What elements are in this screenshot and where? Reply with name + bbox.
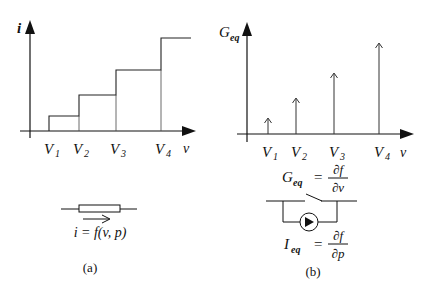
panel-b-x-label: v bbox=[400, 145, 407, 160]
svg-text:V: V bbox=[262, 144, 273, 160]
panel-b-tick-v3: V 3 bbox=[329, 144, 345, 162]
panel-a-staircase bbox=[49, 38, 191, 131]
svg-text:G: G bbox=[219, 24, 230, 40]
wire-branch-left bbox=[283, 201, 300, 222]
impulse-v3 bbox=[331, 73, 338, 134]
panel-a-tick-v3: V 3 bbox=[110, 141, 126, 159]
svg-text:∂p: ∂p bbox=[332, 246, 345, 261]
impulse-v2 bbox=[293, 98, 300, 134]
panel-b-y-label: G eq bbox=[219, 24, 239, 43]
svg-text:2: 2 bbox=[302, 151, 307, 162]
panel-b-tick-v2: V 2 bbox=[291, 144, 307, 162]
svg-text:=: = bbox=[314, 236, 322, 252]
panel-a-x-label: v bbox=[183, 141, 190, 156]
svg-text:4: 4 bbox=[166, 148, 171, 159]
svg-text:V: V bbox=[374, 144, 385, 160]
panel-a-caption: (a) bbox=[83, 260, 97, 275]
svg-text:=: = bbox=[314, 169, 322, 185]
svg-text:∂f: ∂f bbox=[333, 162, 345, 177]
svg-text:V: V bbox=[291, 144, 302, 160]
panel-b-circuit bbox=[266, 194, 357, 231]
svg-text:4: 4 bbox=[385, 151, 390, 162]
geq-equation: G eq = ∂f ∂v bbox=[282, 162, 348, 195]
ieq-equation: I eq = ∂f ∂p bbox=[283, 228, 348, 261]
resistor-body bbox=[79, 205, 120, 212]
panel-a-tick-v2: V 2 bbox=[73, 141, 89, 159]
svg-text:1: 1 bbox=[55, 148, 60, 159]
panel-a-tick-v4: V 4 bbox=[155, 141, 171, 159]
panel-a-y-arrow-icon bbox=[25, 20, 35, 34]
svg-text:eq: eq bbox=[293, 177, 302, 188]
panel-b-plot: G eq v V 1 V 2 V 3 V 4 bbox=[219, 22, 414, 162]
svg-text:eq: eq bbox=[291, 244, 300, 255]
svg-text:V: V bbox=[110, 141, 121, 157]
panel-a-equation: i = f(v, p) bbox=[74, 225, 127, 241]
svg-text:V: V bbox=[73, 141, 84, 157]
panel-a-tick-v1: V 1 bbox=[44, 141, 60, 159]
impulse-v4 bbox=[376, 43, 383, 134]
svg-text:3: 3 bbox=[339, 151, 345, 162]
svg-text:∂v: ∂v bbox=[332, 180, 344, 195]
panel-a-y-label: i bbox=[17, 20, 22, 36]
svg-text:G: G bbox=[282, 169, 293, 185]
panel-b-tick-v1: V 1 bbox=[262, 144, 278, 162]
svg-text:2: 2 bbox=[84, 148, 89, 159]
figure-canvas: i v V 1 V 2 V 3 V 4 i = f(v, p) (a) bbox=[0, 0, 427, 293]
svg-text:eq: eq bbox=[230, 32, 239, 43]
svg-text:V: V bbox=[44, 141, 55, 157]
wire-branch-right bbox=[318, 201, 337, 222]
svg-text:1: 1 bbox=[273, 151, 278, 162]
panel-b-tick-v4: V 4 bbox=[374, 144, 390, 162]
panel-a-plot: i v V 1 V 2 V 3 V 4 bbox=[17, 20, 196, 159]
svg-text:∂f: ∂f bbox=[333, 228, 345, 243]
impulse-v1 bbox=[265, 118, 272, 134]
svg-text:V: V bbox=[155, 141, 166, 157]
svg-text:3: 3 bbox=[120, 148, 126, 159]
panel-a-element-symbol bbox=[61, 205, 137, 223]
svg-text:V: V bbox=[329, 144, 340, 160]
current-source-arrow-icon bbox=[305, 217, 314, 227]
switch-blade-icon bbox=[306, 194, 322, 201]
panel-b-caption: (b) bbox=[305, 264, 320, 279]
svg-text:I: I bbox=[283, 236, 290, 252]
panel-a-x-arrow-icon bbox=[182, 126, 196, 136]
panel-b-x-arrow-icon bbox=[400, 129, 414, 139]
panel-b-y-arrow-icon bbox=[242, 22, 252, 36]
